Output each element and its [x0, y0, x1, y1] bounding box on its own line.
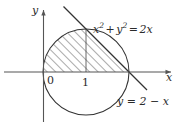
math-figure: y x 0 1 x2+y2=2x y = 2 − x: [0, 0, 185, 127]
circle-equation-label: x2+y2=2x: [93, 22, 153, 35]
y-axis-arrowhead: [41, 10, 45, 16]
x-axis-label: x: [166, 72, 172, 83]
x-tick-label-one: 1: [82, 77, 89, 88]
circle-equation-text: x2+y2=2x: [93, 23, 153, 36]
origin-label: 0: [47, 75, 54, 86]
line-equation-label: y = 2 − x: [117, 96, 169, 107]
y-axis-label: y: [32, 5, 38, 16]
